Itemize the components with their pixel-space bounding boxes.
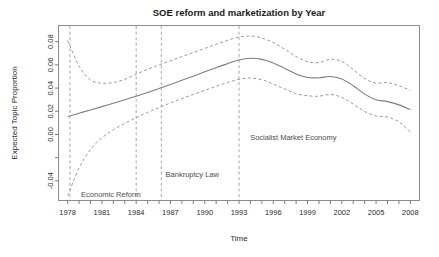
x-tick-label: 1990 [196, 208, 213, 217]
chart-container: SOE reform and marketization by Year 0.0… [0, 0, 439, 257]
y-axis-title: Expected Topic Proportion [10, 66, 19, 159]
x-tick-label: 1999 [299, 208, 316, 217]
x-tick-label: 2008 [402, 208, 419, 217]
x-tick-label: 1987 [162, 208, 179, 217]
x-tick-label: 2005 [368, 208, 385, 217]
x-tick-label: 1978 [59, 208, 76, 217]
x-tick-label: 1996 [265, 208, 282, 217]
y-tick-label: 0.00 [46, 127, 55, 142]
y-tick-label: 0.08 [46, 34, 55, 49]
soe-reform-line-chart: SOE reform and marketization by Year 0.0… [0, 0, 439, 257]
y-tick-label: -0.04 [46, 172, 55, 189]
x-tick-label: 1993 [231, 208, 248, 217]
x-axis-title: Time [230, 234, 248, 243]
x-tick-label: 1981 [94, 208, 111, 217]
chart-background [0, 0, 439, 257]
x-tick-label: 2002 [333, 208, 350, 217]
event-annotation-label: Bankruptcy Law [166, 170, 220, 179]
x-tick-label: 1984 [128, 208, 145, 217]
chart-title: SOE reform and marketization by Year [153, 7, 326, 18]
y-tick-label: 0.04 [46, 81, 55, 96]
y-tick-label: 0.02 [46, 104, 55, 119]
event-annotation-label: Socialist Market Economy [250, 133, 337, 142]
event-annotation-label: Economic Reform [81, 190, 141, 199]
y-tick-label: 0.06 [46, 58, 55, 73]
